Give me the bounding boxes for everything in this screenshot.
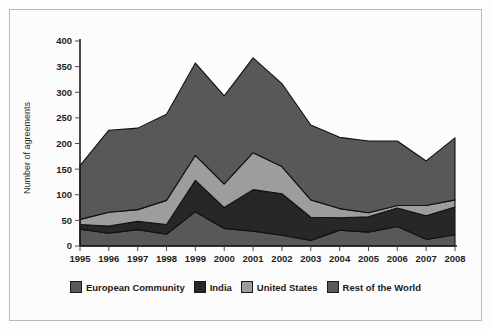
chart-legend: European CommunityIndiaUnited StatesRest… [0,281,491,293]
x-tick-label: 2004 [329,253,351,264]
legend-item: Rest of the World [327,281,421,293]
legend-label: United States [257,282,318,293]
x-tick-label: 2002 [271,253,292,264]
legend-swatch-icon [70,281,82,293]
x-tick-label: 1998 [156,253,177,264]
figure-container: 050100150200250300350400 199519961997199… [0,0,491,330]
y-tick-label: 400 [56,35,72,46]
y-tick-label: 300 [56,87,72,98]
legend-label: India [210,282,232,293]
x-tick-label: 2006 [387,253,408,264]
legend-label: European Community [86,282,185,293]
x-tick-label: 1996 [98,253,119,264]
legend-swatch-icon [241,281,253,293]
x-tick-label: 2005 [358,253,380,264]
x-tick-label: 2003 [300,253,321,264]
x-axis-ticks: 1995199619971998199920002001200220032004… [69,246,465,264]
legend-label: Rest of the World [343,282,421,293]
legend-item: India [194,281,232,293]
x-tick-label: 2000 [214,253,235,264]
legend-item: European Community [70,281,185,293]
y-tick-label: 50 [61,215,72,226]
x-tick-label: 2007 [416,253,437,264]
series-layer [80,58,455,246]
y-tick-label: 200 [56,138,72,149]
y-tick-label: 350 [56,61,72,72]
x-tick-label: 1999 [185,253,206,264]
y-axis-label: Number of agreements [22,101,32,194]
x-tick-label: 1995 [69,253,91,264]
y-tick-label: 250 [56,112,72,123]
y-tick-label: 150 [56,164,72,175]
legend-item: United States [241,281,318,293]
y-tick-label: 0 [67,240,72,251]
y-tick-label: 100 [56,189,72,200]
y-axis-ticks: 050100150200250300350400 [56,35,80,251]
x-tick-label: 2001 [243,253,265,264]
legend-swatch-icon [327,281,339,293]
legend-swatch-icon [194,281,206,293]
x-tick-label: 1997 [127,253,148,264]
x-tick-label: 2008 [444,253,465,264]
